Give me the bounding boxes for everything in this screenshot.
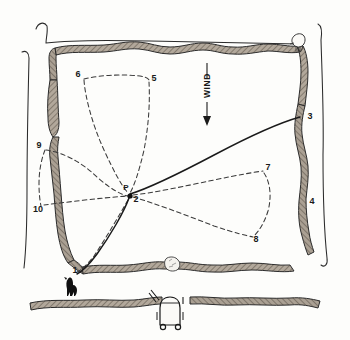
route-2-to-1 bbox=[77, 198, 129, 274]
site-plan-svg: WIND 1 2 3 4 5 6 7 bbox=[0, 0, 350, 340]
path-6-to-2 bbox=[84, 80, 128, 193]
cart-figure bbox=[149, 290, 183, 330]
wall-south-inner bbox=[82, 262, 294, 274]
wall-east-lower bbox=[295, 104, 314, 255]
point-label-2: 2 bbox=[133, 194, 138, 204]
wind-indicator: WIND bbox=[202, 63, 212, 126]
path-2-to-7 bbox=[133, 171, 263, 195]
path-6-to-5 bbox=[84, 75, 149, 80]
wall-north bbox=[55, 42, 300, 55]
wall-west-upper bbox=[48, 80, 59, 137]
walked-route bbox=[77, 117, 300, 274]
path-5-to-2 bbox=[130, 82, 149, 193]
site-plan-figure: WIND 1 2 3 4 5 6 7 bbox=[0, 0, 350, 340]
outer-boundary-lines bbox=[22, 23, 327, 268]
path-2-to-8 bbox=[133, 197, 253, 237]
point-label-9: 9 bbox=[36, 140, 41, 150]
station-point-2 bbox=[127, 193, 132, 198]
point-label-3: 3 bbox=[307, 111, 312, 121]
observed-paths bbox=[39, 75, 270, 272]
wall-west-lower bbox=[50, 137, 74, 263]
wall-south-outer-right bbox=[190, 297, 320, 308]
path-9-to-10 bbox=[39, 150, 45, 206]
stone-marker bbox=[165, 257, 180, 271]
point-label-7: 7 bbox=[265, 162, 270, 172]
route-2-to-3 bbox=[130, 117, 300, 194]
point-label-4: 4 bbox=[309, 196, 314, 206]
point-label-6: 6 bbox=[75, 69, 80, 79]
path-7-to-8 bbox=[254, 173, 270, 236]
point-label-5: 5 bbox=[151, 73, 156, 83]
wind-arrow-head bbox=[203, 116, 211, 126]
station-label-p: P bbox=[123, 183, 129, 192]
point-label-8: 8 bbox=[253, 234, 258, 244]
wind-label: WIND bbox=[202, 73, 212, 98]
dog-figure bbox=[64, 277, 77, 296]
point-label-10: 10 bbox=[33, 204, 43, 214]
wall-south-outer-left bbox=[30, 297, 162, 310]
wall-northwest-corner bbox=[49, 48, 57, 80]
wall-east-upper bbox=[297, 46, 308, 106]
path-2-to-1-dashed bbox=[77, 200, 128, 272]
point-label-group: 1 2 3 4 5 6 7 8 9 10 P bbox=[33, 69, 315, 275]
point-label-1: 1 bbox=[72, 265, 77, 275]
